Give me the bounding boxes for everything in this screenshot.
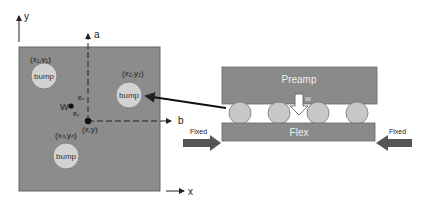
bump-n-coord: (xₙ,yₙ)	[55, 131, 77, 140]
ex-label: eₓ	[78, 94, 85, 101]
load-label: W	[305, 96, 311, 102]
preamp-label: Preamp	[281, 74, 316, 85]
x-axis-arrow: x	[166, 186, 193, 197]
bump-1-label: bump	[34, 72, 55, 81]
y-axis-arrow: y	[19, 11, 29, 42]
flex-label: Flex	[290, 127, 309, 138]
diagram-svg: y x a b (x₁,y₁) bump (x₂,y₂) bump (xₙ,yₙ…	[0, 0, 426, 202]
bump-2-label: bump	[119, 91, 140, 100]
x-axis-label: x	[188, 186, 193, 197]
weight-label: W	[60, 102, 69, 112]
bump-1-coord: (x₁,y₁)	[30, 55, 51, 64]
flex-block: Flex	[222, 123, 375, 141]
fixed-arrow-left: Fixed	[183, 128, 221, 151]
y-axis-label: y	[24, 11, 29, 22]
b-axis-label: b	[178, 115, 184, 126]
fixed-right-label: Fixed	[389, 128, 406, 135]
fixed-arrow-right: Fixed	[376, 128, 412, 151]
bump-n-label: bump	[56, 152, 77, 161]
a-axis-label: a	[94, 29, 100, 40]
ey-label: eᵧ	[73, 110, 80, 117]
diagram-canvas: y x a b (x₁,y₁) bump (x₂,y₂) bump (xₙ,yₙ…	[0, 0, 426, 202]
bump-2-coord: (x₂,y₂)	[122, 69, 144, 78]
fixed-left-label: Fixed	[190, 128, 207, 135]
center-label: (x,y)	[82, 125, 98, 134]
bump-n: (xₙ,yₙ) bump	[53, 131, 79, 169]
